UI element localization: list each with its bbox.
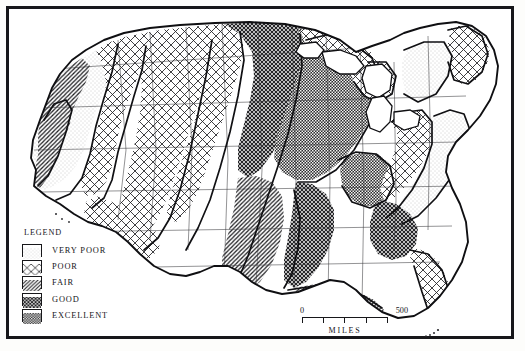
scale-tick-125	[323, 317, 324, 323]
legend-swatch-poor	[22, 260, 42, 273]
scale-line-wrap	[300, 317, 408, 325]
legend-item-good: GOOD	[22, 291, 172, 307]
legend-item-poor: POOR	[22, 258, 172, 274]
scale-max-label: 500	[396, 306, 408, 315]
legend-label-excellent: EXCELLENT	[52, 311, 108, 320]
legend-title: LEGEND	[24, 228, 172, 237]
legend-label-good: GOOD	[52, 295, 80, 304]
channel-islands	[55, 213, 70, 223]
scale-tick-375	[366, 317, 367, 323]
scale-tick-250	[344, 317, 345, 323]
legend-swatch-excellent	[22, 309, 42, 322]
legend-swatch-fair	[22, 276, 42, 289]
legend-swatch-good	[22, 293, 42, 306]
scale-units-label: MILES	[300, 326, 408, 335]
legend-item-very-poor: VERY POOR	[22, 242, 172, 258]
florida-keys	[425, 329, 439, 337]
scale-numbers: 0 500	[300, 306, 408, 317]
scale-tick-0	[302, 317, 303, 323]
scale-bar: 0 500 MILES	[300, 306, 408, 335]
legend: LEGEND VERY POOR POOR FAI	[22, 228, 172, 324]
scale-tick-500	[387, 317, 388, 323]
legend-label-fair: FAIR	[52, 278, 74, 287]
scale-min-label: 0	[300, 306, 304, 315]
map-root: LEGEND VERY POOR POOR FAI	[0, 0, 525, 351]
legend-swatch-very-poor	[22, 244, 42, 257]
legend-label-poor: POOR	[52, 262, 78, 271]
legend-item-fair: FAIR	[22, 275, 172, 291]
legend-item-excellent: EXCELLENT	[22, 308, 172, 324]
legend-label-very-poor: VERY POOR	[52, 246, 106, 255]
